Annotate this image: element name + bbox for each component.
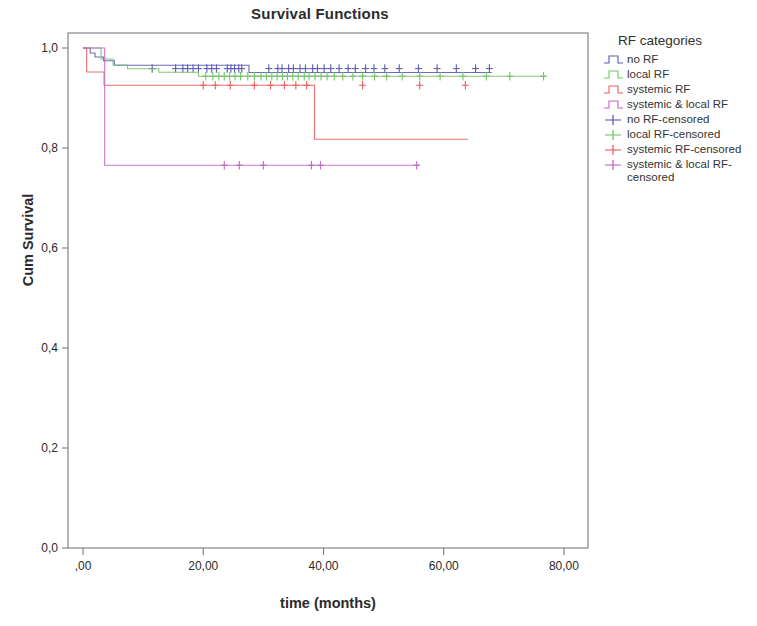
censor-mark [306, 72, 313, 80]
legend-item-label: systemic & local RF- censored [627, 158, 732, 183]
legend-step-icon [604, 68, 624, 81]
legend-item-label: systemic RF-censored [627, 143, 741, 156]
legend-items: no RFlocal RFsystemic RFsystemic & local… [604, 53, 756, 183]
legend-item-label: local RF [627, 68, 669, 81]
censor-mark [290, 64, 297, 72]
censor-mark [359, 81, 366, 89]
y-axis: 0,00,20,40,60,81,0 [41, 41, 68, 555]
series-local-rf [83, 48, 547, 80]
legend: RF categories no RFlocal RFsystemic RFsy… [604, 33, 756, 184]
censor-mark [359, 72, 366, 80]
censor-mark [345, 64, 352, 72]
censor-mark [212, 81, 219, 89]
censor-mark [506, 72, 513, 80]
censor-mark [540, 72, 547, 80]
censor-mark [200, 81, 207, 89]
legend-title: RF categories [618, 33, 756, 48]
censor-mark [302, 64, 309, 72]
censor-mark [292, 81, 299, 89]
y-tick-label: 1,0 [41, 41, 58, 55]
x-tick-label: 80,00 [549, 559, 579, 573]
censor-mark [486, 64, 493, 72]
legend-step-icon [604, 53, 624, 66]
y-tick-label: 0,4 [41, 341, 58, 355]
legend-item-label: systemic RF [627, 83, 690, 96]
legend-item[interactable]: systemic & local RF- censored [604, 158, 756, 183]
censor-mark [324, 72, 331, 80]
legend-item[interactable]: local RF [604, 68, 756, 82]
x-tick-label: 20,00 [188, 559, 218, 573]
legend-cross-icon [604, 113, 624, 126]
censor-mark [227, 81, 234, 89]
legend-item[interactable]: systemic RF [604, 83, 756, 97]
y-tick-label: 0,8 [41, 141, 58, 155]
y-tick-label: 0,0 [41, 541, 58, 555]
censor-mark [312, 72, 319, 80]
censor-mark [350, 72, 357, 80]
legend-item[interactable]: systemic RF-censored [604, 143, 756, 157]
censor-mark [303, 81, 310, 89]
censor-mark [415, 64, 422, 72]
censor-mark [371, 72, 378, 80]
censor-mark [396, 64, 403, 72]
censor-mark [321, 64, 328, 72]
legend-item[interactable]: systemic & local RF [604, 98, 756, 112]
censor-mark [331, 72, 338, 80]
x-tick-label: ,00 [75, 559, 92, 573]
censor-mark [236, 161, 243, 169]
legend-cross-icon [604, 128, 624, 141]
censor-mark [352, 64, 359, 72]
censor-mark [362, 64, 369, 72]
censor-mark [434, 64, 441, 72]
censor-mark [295, 72, 302, 80]
censor-mark [318, 72, 325, 80]
censor-mark [381, 64, 388, 72]
series-systemic-local-rf [83, 48, 420, 169]
censor-mark [260, 161, 267, 169]
censor-mark [202, 72, 209, 80]
censor-mark [317, 161, 324, 169]
legend-item-label: systemic & local RF [627, 98, 728, 111]
censor-mark [314, 64, 321, 72]
censor-mark [416, 72, 423, 80]
legend-item-label: local RF-censored [627, 128, 720, 141]
censor-mark [437, 72, 444, 80]
censor-mark [267, 81, 274, 89]
series-systemic-rf [83, 48, 469, 139]
legend-item[interactable]: no RF [604, 53, 756, 67]
censor-mark [251, 81, 258, 89]
censor-mark [383, 72, 390, 80]
x-tick-label: 60,00 [429, 559, 459, 573]
x-axis-title: time (months) [68, 595, 588, 611]
legend-item[interactable]: local RF-censored [604, 128, 756, 142]
plot-frame [68, 33, 588, 548]
censor-mark [371, 64, 378, 72]
censor-mark [399, 72, 406, 80]
y-tick-label: 0,2 [41, 441, 58, 455]
censor-mark [339, 72, 346, 80]
legend-item-label: no RF [627, 53, 658, 66]
censor-mark [251, 72, 258, 80]
censor-mark [237, 72, 244, 80]
censor-mark [244, 72, 251, 80]
censor-mark [336, 64, 343, 72]
x-axis: ,0020,0040,0060,0080,00 [75, 548, 580, 573]
censor-mark [209, 72, 216, 80]
legend-item[interactable]: no RF-censored [604, 113, 756, 127]
legend-cross-icon [604, 158, 624, 171]
censor-mark [416, 81, 423, 89]
legend-cross-icon [604, 143, 624, 156]
censor-mark [472, 64, 479, 72]
censor-mark [279, 64, 286, 72]
censor-mark [460, 72, 467, 80]
x-tick-label: 40,00 [308, 559, 338, 573]
censor-mark [281, 81, 288, 89]
censor-mark [483, 72, 490, 80]
censor-mark [265, 64, 272, 72]
censor-mark [327, 64, 334, 72]
censor-mark [453, 64, 460, 72]
legend-step-icon [604, 83, 624, 96]
censor-mark [413, 161, 420, 169]
legend-item-label: no RF-censored [627, 113, 709, 126]
survival-functions-chart: Survival Functions 0,00,20,40,60,81,0,00… [0, 0, 757, 626]
